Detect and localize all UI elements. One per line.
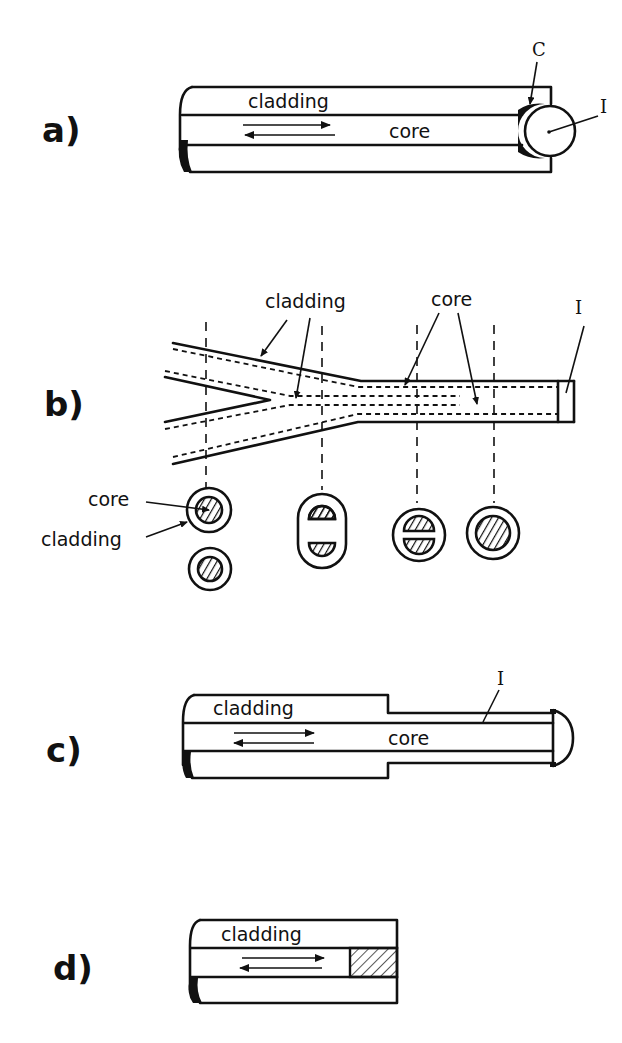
cross-section-4 — [467, 507, 519, 559]
hatched-end-element — [350, 948, 397, 977]
fiber-a — [179, 62, 598, 172]
label-core-c: core — [388, 727, 429, 749]
label-interface-c: I — [497, 668, 504, 689]
panel-label-a: a) — [42, 110, 80, 150]
fiber-break-mark — [182, 752, 194, 778]
panel-c: c) cladding core I — [46, 668, 573, 778]
label-cladding-a: cladding — [248, 90, 329, 112]
label-core-a: core — [389, 120, 430, 142]
fiber-optic-diagram: a) cladding core C I b) — [0, 0, 622, 1043]
fiber-break-mark — [189, 978, 202, 1003]
label-section-core: core — [88, 488, 129, 510]
label-interface-b: I — [575, 297, 582, 318]
coupler-b — [165, 313, 584, 503]
panel-label-d: d) — [53, 948, 93, 988]
label-cladding-c: cladding — [213, 697, 294, 719]
cross-section-2 — [298, 494, 346, 568]
cross-section-3 — [393, 509, 445, 561]
panel-label-c: c) — [46, 730, 82, 770]
label-cladding-d: cladding — [221, 923, 302, 945]
panel-label-b: b) — [44, 384, 84, 424]
panel-a: a) cladding core C I — [42, 39, 607, 172]
panel-d: d) cladding — [53, 920, 397, 1003]
panel-b: b) cladding core I — [41, 288, 584, 590]
interface-dome — [553, 710, 573, 766]
cross-section-1 — [146, 488, 231, 590]
label-coupling-c: C — [532, 39, 546, 60]
label-interface-a: I — [600, 96, 607, 117]
label-core-b: core — [431, 288, 472, 310]
label-section-cladding: cladding — [41, 528, 122, 550]
label-cladding-b: cladding — [265, 290, 346, 312]
